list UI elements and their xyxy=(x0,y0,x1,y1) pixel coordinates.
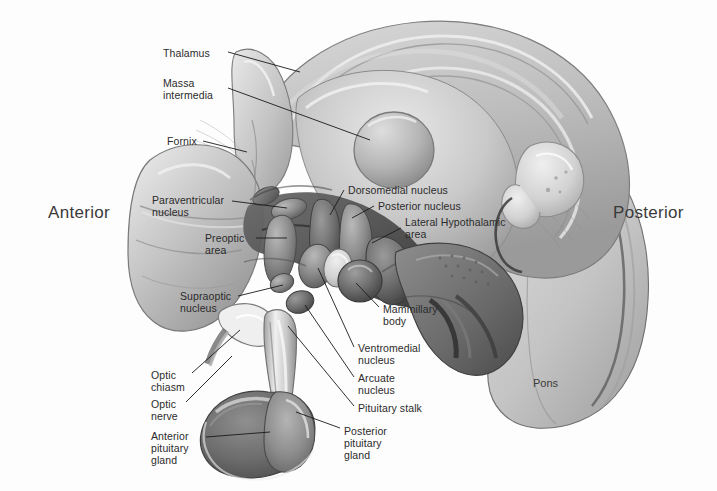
label-thalamus: Thalamus xyxy=(163,47,210,59)
label-arcuate: Arcuate nucleus xyxy=(358,372,395,396)
label-ventromedial: Ventromedial nucleus xyxy=(358,342,421,366)
label-paraventricular: Paraventricular nucleus xyxy=(152,194,224,218)
label-posterior-pituitary: Posterior pituitary gland xyxy=(344,425,387,461)
label-mammillary-body: Mammillary body xyxy=(383,303,438,327)
label-preoptic-area: Preoptic area xyxy=(205,232,244,256)
region-label-pons: Pons xyxy=(533,377,558,389)
orientation-anterior: Anterior xyxy=(48,203,110,223)
pituitary-gland-group xyxy=(200,391,314,479)
label-massa-intermedia: Massa intermedia xyxy=(163,77,213,101)
orientation-posterior: Posterior xyxy=(613,203,684,223)
label-optic-nerve: Optic nerve xyxy=(151,398,178,422)
label-lateral-hypothalamic: Lateral Hypothalamic area xyxy=(405,216,506,240)
label-fornix: Fornix xyxy=(167,135,197,147)
brain-illustration xyxy=(0,0,717,491)
label-optic-chiasm: Optic chiasm xyxy=(151,369,185,393)
label-posterior-nucleus: Posterior nucleus xyxy=(378,200,461,212)
label-dorsomedial: Dorsomedial nucleus xyxy=(348,184,448,196)
label-pituitary-stalk: Pituitary stalk xyxy=(358,402,422,414)
anatomy-figure: Anterior Posterior Pons ThalamusMassa in… xyxy=(0,0,717,491)
label-anterior-pituitary: Anterior pituitary gland xyxy=(151,430,189,466)
label-supraoptic: Supraoptic nucleus xyxy=(180,290,231,314)
massa-intermedia-shape xyxy=(354,112,434,188)
